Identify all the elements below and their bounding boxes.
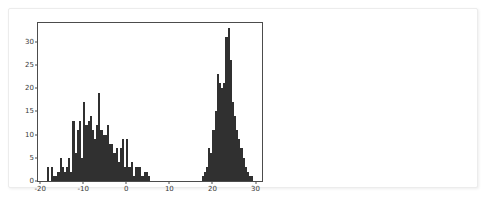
y-tick-mark [35,134,38,135]
x-tick-mark [212,181,213,184]
histogram-bar [47,167,49,181]
x-tick-label: -10 [78,186,89,193]
matplotlib-figure: 051015202530 -20-100102030 [9,9,289,189]
y-tick-label: 15 [25,108,34,115]
histogram-bar [251,176,253,181]
y-tick-mark [35,88,38,89]
y-tick-label: 5 [30,154,34,161]
x-tick-label: -20 [34,186,45,193]
x-tick-mark [83,181,84,184]
y-tick-mark [35,181,38,182]
x-tick-label: 20 [208,186,217,193]
x-tick-mark [40,181,41,184]
x-tick-mark [169,181,170,184]
y-tick-label: 30 [25,38,34,45]
plot-area [38,23,262,181]
x-tick-label: 0 [124,186,128,193]
x-tick-mark [126,181,127,184]
chart-card: 051015202530 -20-100102030 [8,8,478,188]
y-tick-mark [35,41,38,42]
x-tick-label: 10 [165,186,174,193]
y-tick-label: 10 [25,131,34,138]
y-tick-mark [35,111,38,112]
y-tick-label: 0 [30,178,34,185]
histogram-bars [38,23,262,181]
y-tick-label: 20 [25,85,34,92]
plot-axes: 051015202530 -20-100102030 [37,22,263,182]
y-tick-mark [35,64,38,65]
histogram-bar [148,176,150,181]
x-tick-label: 30 [251,186,260,193]
y-tick-mark [35,157,38,158]
x-tick-mark [255,181,256,184]
y-tick-label: 25 [25,61,34,68]
screenshot-root: 051015202530 -20-100102030 [0,0,491,203]
